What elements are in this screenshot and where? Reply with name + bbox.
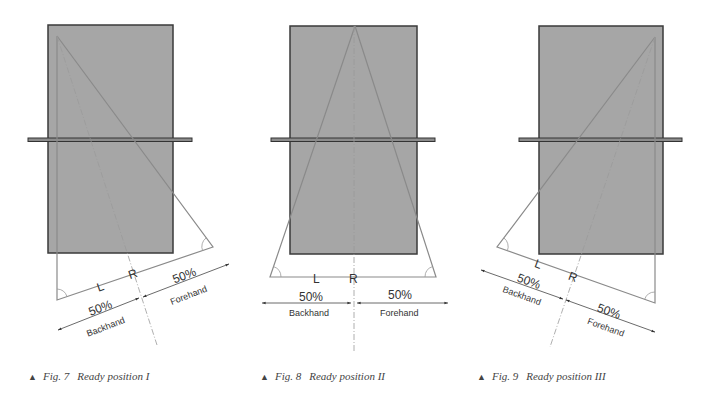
angle-arc-left [504, 238, 508, 251]
caption-number: Fig. 9 [492, 370, 518, 382]
left-foot-label: L [95, 279, 106, 295]
backhand-label: Backhand [289, 308, 329, 318]
left-foot-label: L [313, 272, 320, 286]
caption-title: Ready position III [526, 370, 605, 382]
backhand-percent: 50% [299, 290, 323, 304]
angle-arc-right [202, 238, 206, 251]
forehand-percent: 50% [388, 288, 412, 302]
right-foot-label: R [349, 272, 358, 286]
triangle-marker-icon: ▲ [477, 372, 486, 382]
angle-arc-right [645, 292, 655, 299]
forehand-label: Forehand [169, 284, 209, 307]
figure-7: L R 50% Backhand 50% Forehand [28, 25, 229, 345]
caption-fig8: ▲Fig. 8Ready position II [260, 370, 385, 382]
diagram-canvas: L R 50% Backhand 50% Forehand L R 50% Ba… [0, 0, 718, 395]
right-foot-label: R [567, 269, 580, 285]
caption-number: Fig. 7 [43, 370, 69, 382]
caption-fig7: ▲Fig. 7Ready position I [28, 370, 149, 382]
angle-arc-right [425, 267, 432, 277]
left-foot-label: L [533, 256, 544, 272]
figure-8: L R 50% Backhand 50% Forehand [262, 26, 448, 352]
triangle-marker-icon: ▲ [28, 372, 37, 382]
forehand-label: Forehand [380, 308, 419, 318]
caption-number: Fig. 8 [275, 370, 301, 382]
angle-arc-left [57, 289, 67, 297]
net-bar [519, 138, 682, 142]
caption-title: Ready position I [77, 370, 149, 382]
right-foot-label: R [126, 266, 139, 282]
forehand-percent: 50% [171, 265, 199, 287]
net-bar [28, 138, 192, 142]
net-bar [271, 138, 435, 142]
caption-fig9: ▲Fig. 9Ready position III [477, 370, 606, 382]
figure-9: L R 50% Backhand 50% Forehand [481, 26, 682, 347]
angle-arc-left [274, 267, 281, 277]
triangle-marker-icon: ▲ [260, 372, 269, 382]
caption-title: Ready position II [309, 370, 385, 382]
backhand-percent: 50% [87, 297, 115, 319]
